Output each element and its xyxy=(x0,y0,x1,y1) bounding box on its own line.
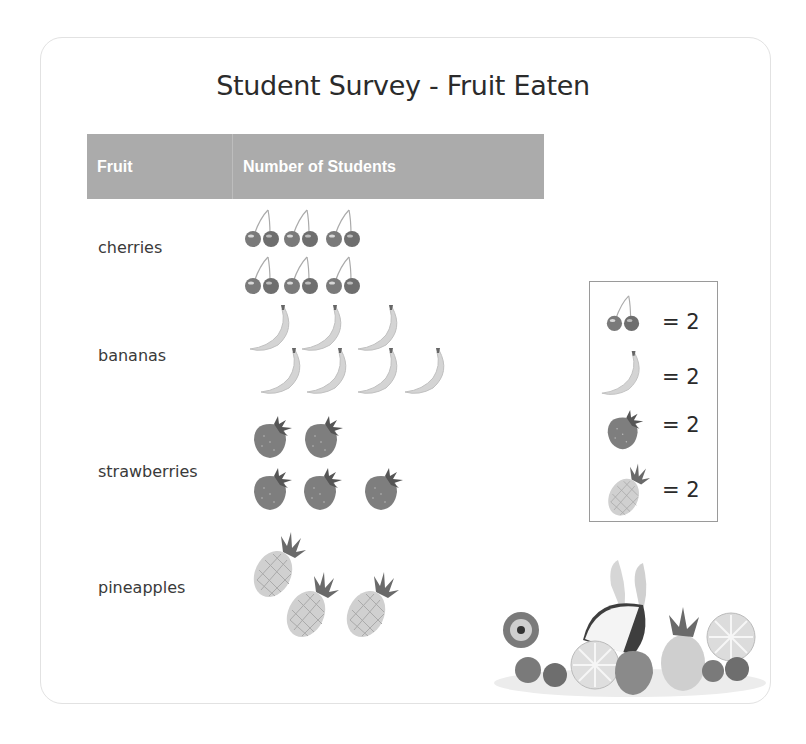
pineapple-icon xyxy=(606,462,650,518)
legend-strawberry-value: = 2 xyxy=(662,413,700,437)
cherry-icon xyxy=(281,255,321,295)
strawberry-icon xyxy=(300,468,345,513)
banana-icon xyxy=(305,346,355,396)
legend-banana-value: = 2 xyxy=(662,365,700,389)
table-header: Fruit Number of Students xyxy=(87,134,544,199)
chart-title: Student Survey - Fruit Eaten xyxy=(0,70,806,101)
strawberry-icon xyxy=(301,416,346,461)
pineapple-icon xyxy=(284,570,339,640)
legend-cherry-value: = 2 xyxy=(662,310,700,334)
banana-icon xyxy=(600,348,648,398)
strawberry-icon xyxy=(250,468,295,513)
row-label-bananas: bananas xyxy=(98,346,166,365)
banana-icon xyxy=(403,346,453,396)
cherry-icon xyxy=(604,294,642,332)
legend-pineapple-value: = 2 xyxy=(662,478,700,502)
legend: = 2 = 2 = 2 = 2 xyxy=(589,281,718,522)
row-label-cherries: cherries xyxy=(98,238,162,257)
strawberry-icon xyxy=(604,410,646,452)
banana-icon xyxy=(356,346,406,396)
strawberry-icon xyxy=(361,468,406,513)
cherry-icon xyxy=(242,208,282,248)
row-label-pineapples: pineapples xyxy=(98,578,185,597)
header-number-of-students: Number of Students xyxy=(233,158,396,176)
cherry-icon xyxy=(323,255,363,295)
fruit-pile-illustration xyxy=(493,555,768,700)
pineapple-icon xyxy=(344,570,399,640)
header-fruit: Fruit xyxy=(87,134,233,199)
cherry-icon xyxy=(242,255,282,295)
cherry-icon xyxy=(281,208,321,248)
cherry-icon xyxy=(323,208,363,248)
strawberry-icon xyxy=(250,416,295,461)
row-label-strawberries: strawberries xyxy=(98,462,198,481)
banana-icon xyxy=(259,346,309,396)
